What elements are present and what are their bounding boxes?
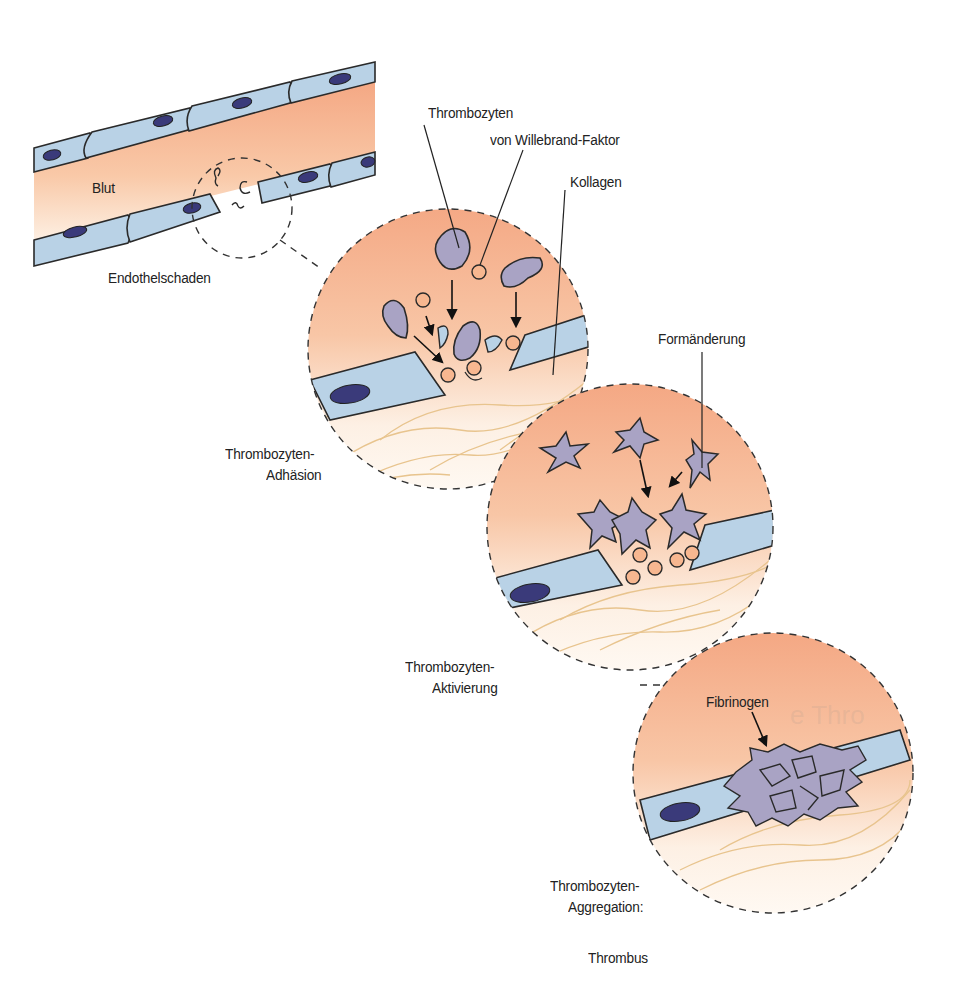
thrombus-formation-diagram: Blut Endothelschaden Thrombozyten von Wi… xyxy=(0,0,965,990)
label-blut: Blut xyxy=(92,178,115,198)
label-aktivierung-line2: Aktivierung xyxy=(432,678,498,698)
label-fibrinogen: Fibrinogen xyxy=(706,692,769,712)
label-aggregation-line1: Thrombozyten- xyxy=(550,876,639,896)
label-adhaesion-line2: Adhäsion xyxy=(266,465,321,485)
ghost-bleed-through-text: e Thro xyxy=(790,700,865,731)
blood-vessel xyxy=(34,62,376,268)
label-aggregation-line2: Aggregation: xyxy=(568,897,643,917)
label-von-willebrand-faktor: von Willebrand-Faktor xyxy=(490,130,620,150)
label-aktivierung-line1: Thrombozyten- xyxy=(405,657,494,677)
label-formaenderung: Formänderung xyxy=(658,329,745,349)
diagram-canvas xyxy=(0,0,965,990)
label-kollagen: Kollagen xyxy=(570,172,622,192)
label-endothelschaden: Endothelschaden xyxy=(108,268,211,288)
label-thrombozyten: Thrombozyten xyxy=(428,103,513,123)
label-thrombus: Thrombus xyxy=(588,948,648,968)
aggregation-circle xyxy=(630,630,920,920)
label-adhaesion-line1: Thrombozyten- xyxy=(225,444,314,464)
